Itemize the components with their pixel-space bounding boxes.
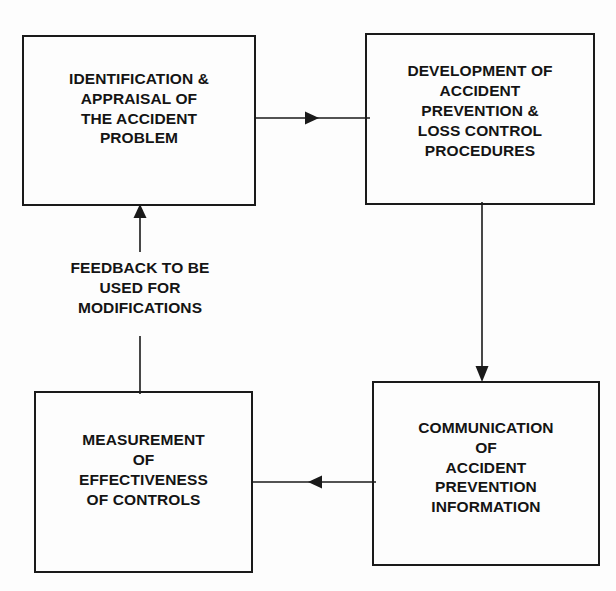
arrow-communication-to-measurement-icon [246,464,380,500]
node-identification-appraisal[interactable]: IDENTIFICATION & APPRAISAL OF THE ACCIDE… [22,35,256,206]
node-measurement-label: MEASUREMENT OF EFFECTIVENESS OF CONTROLS [79,430,208,510]
arrow-development-to-communication-icon [464,198,500,388]
node-communication-information[interactable]: COMMUNICATION OF ACCIDENT PREVENTION INF… [372,381,600,566]
flowchart-canvas: IDENTIFICATION & APPRAISAL OF THE ACCIDE… [0,0,616,591]
node-communication-label: COMMUNICATION OF ACCIDENT PREVENTION INF… [418,418,553,518]
node-development-label: DEVELOPMENT OF ACCIDENT PREVENTION & LOS… [407,61,552,161]
arrow-measurement-to-feedback-segment-icon [122,332,158,396]
node-identification-label: IDENTIFICATION & APPRAISAL OF THE ACCIDE… [69,69,209,149]
node-measurement-effectiveness[interactable]: MEASUREMENT OF EFFECTIVENESS OF CONTROLS [34,391,253,573]
arrow-feedback-to-identification-icon [122,200,158,256]
caption-feedback-modifications: FEEDBACK TO BE USED FOR MODIFICATIONS [18,258,262,318]
arrow-identification-to-development-icon [250,100,374,136]
node-development-procedures[interactable]: DEVELOPMENT OF ACCIDENT PREVENTION & LOS… [365,33,595,205]
